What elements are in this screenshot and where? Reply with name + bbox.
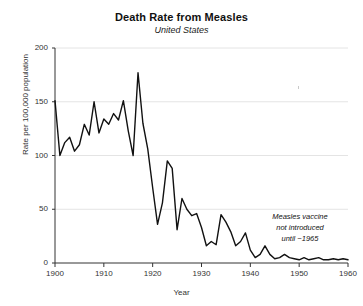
annotation-line-3: until ~1965 xyxy=(252,234,348,245)
annotation-line-1: Measles vaccine xyxy=(252,212,348,223)
chart-container: Death Rate from Measles United States Ra… xyxy=(0,0,363,306)
plot-area xyxy=(0,0,363,306)
image-speck xyxy=(298,86,299,89)
annotation-line-2: not introduced xyxy=(252,223,348,234)
annotation-vaccine-note: Measles vaccine not introduced until ~19… xyxy=(252,212,348,245)
